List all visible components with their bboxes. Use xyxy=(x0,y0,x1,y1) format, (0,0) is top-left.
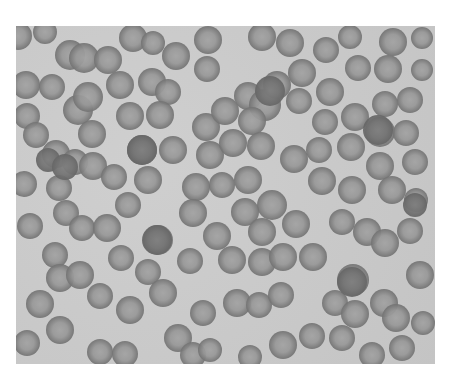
red-blood-cell xyxy=(359,342,385,364)
red-blood-cell xyxy=(402,149,428,175)
red-blood-cell xyxy=(162,42,190,70)
blood-smear-micrograph xyxy=(16,26,435,364)
red-blood-cell xyxy=(268,282,294,308)
red-blood-cell xyxy=(312,109,338,135)
red-blood-cell xyxy=(211,97,239,125)
red-blood-cell xyxy=(87,283,113,309)
red-blood-cell xyxy=(33,26,57,44)
red-blood-cell xyxy=(142,225,172,255)
red-blood-cell xyxy=(218,246,246,274)
red-blood-cell xyxy=(115,192,141,218)
red-blood-cell xyxy=(106,71,134,99)
red-blood-cell xyxy=(257,190,287,220)
red-blood-cell xyxy=(337,267,367,297)
red-blood-cell xyxy=(16,330,40,356)
red-blood-cell xyxy=(288,59,316,87)
red-blood-cell xyxy=(378,176,406,204)
red-blood-cell xyxy=(238,345,262,364)
red-blood-cell xyxy=(411,59,433,81)
red-blood-cell xyxy=(16,26,32,50)
red-blood-cell xyxy=(308,167,336,195)
red-blood-cell xyxy=(382,304,410,332)
red-blood-cell xyxy=(127,135,157,165)
red-blood-cell xyxy=(299,323,325,349)
red-blood-cell xyxy=(337,133,365,161)
red-blood-cell xyxy=(194,26,222,54)
red-blood-cell xyxy=(276,29,304,57)
red-blood-cell xyxy=(269,331,297,359)
red-blood-cell xyxy=(306,137,332,163)
red-blood-cell xyxy=(112,341,138,364)
red-blood-cell xyxy=(238,107,266,135)
red-blood-cell xyxy=(282,210,310,238)
red-blood-cell xyxy=(329,209,355,235)
red-blood-cell xyxy=(286,88,312,114)
red-blood-cell xyxy=(374,55,402,83)
red-blood-cell xyxy=(219,129,247,157)
red-blood-cell xyxy=(94,46,122,74)
red-blood-cell xyxy=(177,248,203,274)
red-blood-cell xyxy=(69,215,95,241)
red-blood-cell xyxy=(198,338,222,362)
red-blood-cell xyxy=(209,172,235,198)
red-blood-cell xyxy=(17,213,43,239)
red-blood-cell xyxy=(78,120,106,148)
red-blood-cell xyxy=(280,145,308,173)
red-blood-cell xyxy=(397,218,423,244)
red-blood-cell xyxy=(182,173,210,201)
red-blood-cell xyxy=(46,316,74,344)
red-blood-cell xyxy=(397,87,423,113)
red-blood-cell xyxy=(116,296,144,324)
red-blood-cell xyxy=(329,325,355,351)
red-blood-cell xyxy=(149,279,177,307)
red-blood-cell xyxy=(338,26,362,49)
red-blood-cell xyxy=(247,132,275,160)
red-blood-cell xyxy=(234,166,262,194)
red-blood-cell xyxy=(159,136,187,164)
red-blood-cell xyxy=(73,82,103,112)
red-blood-cell xyxy=(403,193,427,217)
red-blood-cell xyxy=(16,71,40,99)
red-blood-cell xyxy=(26,290,54,318)
red-blood-cell xyxy=(313,37,339,63)
red-blood-cell xyxy=(341,300,369,328)
red-blood-cell xyxy=(269,243,297,271)
red-blood-cell xyxy=(134,166,162,194)
red-blood-cell xyxy=(371,229,399,257)
red-blood-cell xyxy=(345,55,371,81)
red-blood-cell xyxy=(93,214,121,242)
red-blood-cell xyxy=(406,261,434,289)
red-blood-cell xyxy=(141,31,165,55)
red-blood-cell xyxy=(379,28,407,56)
red-blood-cell xyxy=(179,199,207,227)
red-blood-cell xyxy=(66,261,94,289)
red-blood-cell xyxy=(16,171,37,197)
red-blood-cell xyxy=(255,76,285,106)
red-blood-cell xyxy=(194,56,220,82)
red-blood-cell xyxy=(39,74,65,100)
red-blood-cell xyxy=(372,91,398,117)
red-blood-cell xyxy=(363,115,393,145)
red-blood-cell xyxy=(116,102,144,130)
red-blood-cell xyxy=(108,245,134,271)
red-blood-cell xyxy=(87,339,113,364)
red-blood-cell xyxy=(393,120,419,146)
red-blood-cell xyxy=(146,101,174,129)
red-blood-cell xyxy=(248,218,276,246)
red-blood-cell xyxy=(316,78,344,106)
red-blood-cell xyxy=(52,154,78,180)
red-blood-cell xyxy=(248,26,276,51)
red-blood-cell xyxy=(411,27,433,49)
red-blood-cell xyxy=(190,300,216,326)
red-blood-cell xyxy=(101,164,127,190)
red-blood-cell xyxy=(299,243,327,271)
red-blood-cell xyxy=(338,176,366,204)
red-blood-cell xyxy=(411,311,435,335)
red-blood-cell xyxy=(389,335,415,361)
